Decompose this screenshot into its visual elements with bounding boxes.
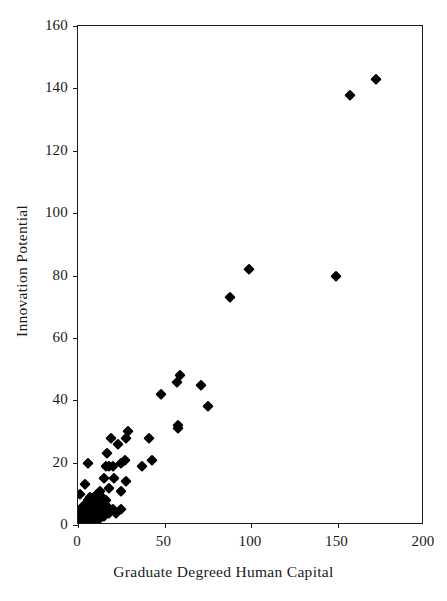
- y-axis-tick: [73, 400, 78, 401]
- x-axis-tick: [251, 523, 252, 528]
- data-point: [83, 457, 94, 468]
- x-axis-tick-label: 150: [307, 534, 367, 549]
- y-axis-tick-label: 20: [6, 454, 68, 469]
- data-point: [121, 476, 132, 487]
- x-axis-tick: [338, 523, 339, 528]
- y-axis-tick-label: 140: [6, 80, 68, 95]
- y-axis-tick: [73, 88, 78, 89]
- data-point: [102, 448, 113, 459]
- data-point: [244, 264, 255, 275]
- x-axis-tick-labels: 050100150200: [77, 534, 423, 554]
- data-point: [195, 379, 206, 390]
- x-axis-tick-label: 200: [393, 534, 447, 549]
- data-point: [109, 473, 120, 484]
- data-point: [202, 401, 213, 412]
- data-point: [330, 270, 341, 281]
- y-axis-tick: [73, 151, 78, 152]
- data-point: [147, 454, 158, 465]
- data-point: [144, 432, 155, 443]
- data-point: [370, 74, 381, 85]
- plot-frame: [77, 25, 423, 524]
- data-point: [104, 482, 115, 493]
- data-point: [137, 460, 148, 471]
- y-axis-tick: [73, 213, 78, 214]
- data-point: [156, 389, 167, 400]
- plot-area: [78, 26, 422, 523]
- x-axis-tick: [78, 523, 79, 528]
- y-axis-tick-label: 160: [6, 18, 68, 33]
- y-axis-tick-label: 40: [6, 392, 68, 407]
- y-axis-tick: [73, 463, 78, 464]
- data-point: [80, 479, 91, 490]
- y-axis-tick: [73, 338, 78, 339]
- x-axis-title: Graduate Degreed Human Capital: [0, 563, 447, 581]
- y-axis-title: Innovation Potential: [13, 161, 31, 381]
- x-axis-tick: [165, 523, 166, 528]
- y-axis-tick-label: 120: [6, 142, 68, 157]
- scatter-plot-figure: 020406080100120140160 050100150200 Gradu…: [0, 0, 447, 601]
- data-point: [344, 89, 355, 100]
- x-axis-tick-label: 50: [134, 534, 194, 549]
- x-axis-tick-label: 0: [47, 534, 107, 549]
- y-axis-tick-labels: 020406080100120140160: [0, 25, 68, 524]
- y-axis-tick-label: 0: [6, 517, 68, 532]
- y-axis-tick: [73, 26, 78, 27]
- data-point: [116, 485, 127, 496]
- x-axis-tick-label: 100: [220, 534, 280, 549]
- data-point: [225, 292, 236, 303]
- y-axis-tick: [73, 276, 78, 277]
